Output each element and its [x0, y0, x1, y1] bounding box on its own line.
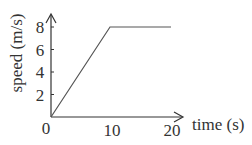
y-axis-label: speed (m/s): [7, 14, 26, 93]
x-axis-label: time (s): [192, 115, 244, 134]
speed-line: [51, 27, 171, 117]
x-tick-label-20: 20: [164, 121, 181, 140]
y-tick-label-4: 4: [36, 63, 45, 82]
y-tick-label-6: 6: [36, 41, 45, 60]
y-tick-label-2: 2: [36, 86, 45, 105]
speed-time-chart: 8 6 4 2 0 10 20 time (s) speed (m/s): [0, 0, 252, 145]
x-tick-label-10: 10: [104, 121, 121, 140]
y-tick-label-8: 8: [36, 18, 45, 37]
x-tick-label-0: 0: [42, 119, 51, 138]
